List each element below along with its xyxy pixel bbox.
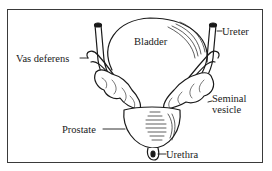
left-seminal-vesicle	[95, 70, 141, 110]
diagram-canvas: Bladder Ureter Vas deferens Seminal vesi…	[0, 0, 272, 171]
label-urethra: Urethra	[166, 149, 198, 160]
label-ureter: Ureter	[222, 26, 249, 37]
label-seminal-vesicle-line2: vesicle	[212, 104, 241, 115]
right-seminal-vesicle	[164, 73, 214, 110]
label-bladder: Bladder	[134, 36, 167, 47]
label-prostate: Prostate	[62, 124, 96, 135]
label-seminal-vesicle-line1: Seminal	[212, 93, 246, 104]
label-vas-deferens: Vas deferens	[16, 53, 69, 64]
prostate-shape	[124, 107, 180, 148]
